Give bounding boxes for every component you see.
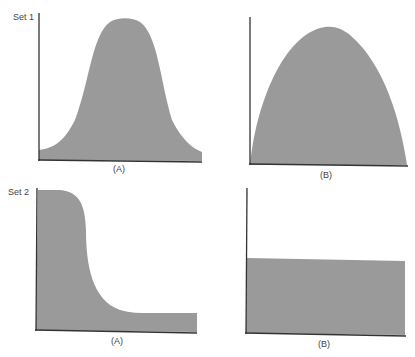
panel-set1-b (249, 17, 408, 166)
bell-curve-area (39, 18, 202, 161)
set2-a-label: (A) (111, 336, 123, 346)
panel-set2-b (245, 188, 406, 336)
set2-b-label: (B) (318, 339, 330, 349)
set1-label: Set 1 (13, 12, 34, 22)
set1-b-label: (B) (320, 170, 332, 180)
set1-a-label: (A) (113, 164, 125, 174)
reverse-sigmoid-area (36, 190, 197, 332)
distribution-diagrams (0, 0, 415, 357)
panel-set2-a (35, 188, 197, 333)
flat-area (246, 258, 405, 335)
panel-set1-a (38, 13, 202, 162)
set2-label: Set 2 (8, 187, 29, 197)
parabola-area (250, 27, 407, 165)
